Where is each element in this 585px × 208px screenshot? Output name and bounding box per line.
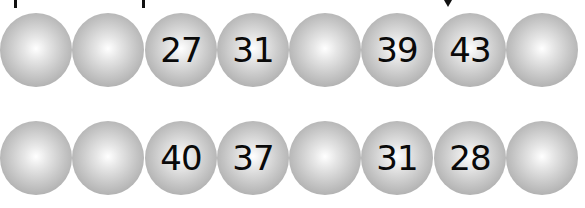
ball-number: 39	[376, 30, 417, 70]
ball	[0, 121, 72, 195]
ball-number: 37	[232, 138, 273, 178]
ball-number: 31	[376, 138, 417, 178]
ball: 28	[434, 121, 506, 195]
ball-row-2: 40 37 31 28	[0, 121, 585, 197]
ball: 31	[217, 13, 289, 87]
ball	[72, 121, 144, 195]
ball	[72, 13, 144, 87]
ball: 27	[145, 13, 217, 87]
ball-number: 27	[160, 30, 201, 70]
ball-number: 40	[160, 138, 201, 178]
tick-mark-1	[14, 0, 17, 8]
ball	[0, 13, 72, 87]
ball-number: 43	[449, 30, 490, 70]
arrow-mark	[444, 0, 452, 7]
ball-row-1: 27 31 39 43	[0, 13, 585, 89]
ball-number: 31	[232, 30, 273, 70]
ball	[289, 13, 361, 87]
ball	[506, 121, 578, 195]
ball: 39	[361, 13, 433, 87]
ball: 43	[434, 13, 506, 87]
tick-mark-2	[142, 0, 145, 8]
ball	[506, 13, 578, 87]
ball: 37	[217, 121, 289, 195]
ball: 31	[361, 121, 433, 195]
ball	[289, 121, 361, 195]
ball: 40	[145, 121, 217, 195]
ball-number: 28	[449, 138, 490, 178]
